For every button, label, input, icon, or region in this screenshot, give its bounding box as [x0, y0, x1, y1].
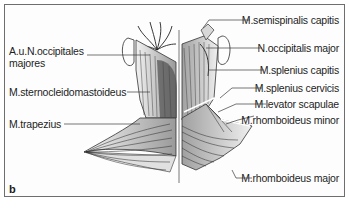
label-sternocleidomastoideus: M.sternocleidomastoideus	[9, 86, 126, 98]
label-occipitales: A.u.N.occipitales majores	[9, 45, 84, 69]
label-splenius-capitis: M.splenius capitis	[260, 64, 339, 76]
label-occipitales-line1: A.u.N.occipitales	[9, 45, 84, 57]
label-occipitalis-major: N.occipitalis major	[258, 42, 339, 54]
panel-label: b	[9, 183, 16, 195]
label-occipitales-line2: majores	[9, 57, 45, 69]
right-ear-outline	[218, 36, 230, 65]
left-ear-outline	[122, 38, 134, 66]
label-semispinalis-capitis: M.semispinalis capitis	[242, 14, 339, 26]
label-levator-scapulae: M.levator scapulae	[254, 98, 339, 110]
label-trapezius: M.trapezius	[9, 118, 61, 130]
label-rhomboideus-major: M.rhomboideus major	[241, 172, 339, 184]
label-rhomboideus-minor: M.rhomboideus minor	[241, 114, 339, 126]
label-splenius-cervicis: M.splenius cervicis	[255, 82, 339, 94]
